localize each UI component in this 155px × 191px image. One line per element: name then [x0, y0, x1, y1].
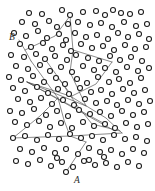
node-circle: [55, 156, 60, 161]
node-circle: [121, 87, 126, 92]
figure-container: BA: [0, 0, 155, 191]
node-circle: [11, 136, 16, 141]
node-circle: [20, 20, 25, 25]
node-circle: [126, 35, 131, 40]
node-circle: [23, 134, 28, 139]
node-circle: [65, 58, 70, 63]
node-circle: [92, 68, 97, 73]
node-circle: [33, 22, 38, 27]
figure-background: [0, 0, 155, 191]
node-circle: [112, 133, 117, 138]
node-circle: [115, 165, 120, 170]
node-circle: [56, 87, 61, 92]
node-circle: [22, 55, 27, 60]
node-circle: [39, 96, 44, 101]
node-circle: [28, 100, 33, 105]
node-circle: [134, 24, 139, 29]
node-circle: [88, 112, 93, 117]
node-circle: [124, 121, 129, 126]
node-circle: [38, 158, 43, 163]
node-circle: [117, 77, 122, 82]
node-circle: [55, 109, 60, 114]
node-circle: [114, 70, 119, 75]
node-circle: [146, 122, 151, 127]
node-circle: [87, 146, 92, 151]
node-circle: [64, 147, 69, 152]
node-circle: [86, 56, 91, 61]
node-circle: [68, 13, 73, 18]
node-circle: [57, 32, 62, 37]
node-circle: [32, 107, 37, 112]
node-circle: [142, 110, 147, 115]
node-circle: [63, 82, 68, 87]
node-circle: [128, 81, 133, 86]
node-circle: [113, 126, 118, 131]
node-circle: [119, 11, 124, 16]
node-circle: [81, 64, 86, 69]
node-circle: [120, 109, 125, 114]
node-circle: [7, 75, 12, 80]
node-circle: [60, 160, 65, 165]
node-circle: [41, 41, 46, 46]
node-circle: [116, 31, 121, 36]
node-circle: [123, 43, 128, 48]
node-circle: [144, 45, 149, 50]
node-circle: [137, 102, 142, 107]
node-circle: [99, 21, 104, 26]
node-circle: [29, 45, 34, 50]
node-circle: [134, 135, 139, 140]
node-circle: [105, 99, 110, 104]
node-circle: [94, 9, 99, 14]
node-circle: [27, 11, 32, 16]
node-circle: [61, 98, 66, 103]
node-circle: [111, 8, 116, 13]
node-circle: [26, 162, 31, 167]
node-circle: [57, 137, 62, 142]
node-circle: [45, 36, 50, 41]
endpoint-label-b: B: [9, 32, 15, 42]
node-circle: [61, 43, 66, 48]
node-circle: [50, 47, 55, 52]
node-circle: [9, 53, 14, 58]
node-circle: [89, 90, 94, 95]
node-circle: [90, 46, 95, 51]
node-circle: [129, 55, 134, 60]
node-circle: [8, 109, 13, 114]
node-circle: [82, 159, 87, 164]
node-circle: [95, 33, 100, 38]
node-circle: [66, 22, 71, 27]
node-circle: [67, 92, 72, 97]
node-circle: [70, 70, 75, 75]
node-circle: [145, 139, 150, 144]
node-circle: [76, 20, 81, 25]
node-circle: [109, 148, 114, 153]
node-circle: [13, 120, 18, 125]
node-circle: [98, 150, 103, 155]
node-circle: [90, 134, 95, 139]
node-circle: [24, 34, 29, 39]
node-circle: [38, 63, 43, 68]
node-circle: [87, 158, 92, 163]
node-circle: [25, 123, 30, 128]
node-circle: [35, 138, 40, 143]
node-circle: [26, 67, 31, 72]
node-circle: [92, 124, 97, 129]
node-circle: [64, 170, 69, 175]
node-circle: [103, 122, 108, 127]
node-circle: [73, 31, 78, 36]
node-circle: [94, 101, 99, 106]
node-circle: [37, 119, 42, 124]
node-circle: [60, 8, 65, 13]
node-circle: [31, 74, 36, 79]
scatter-network-diagram: BA: [0, 0, 155, 191]
node-circle: [85, 81, 90, 86]
node-circle: [81, 120, 86, 125]
node-circle: [98, 110, 103, 115]
node-circle: [69, 49, 74, 54]
node-circle: [102, 155, 107, 160]
node-circle: [46, 133, 51, 138]
node-circle: [123, 137, 128, 142]
node-circle: [137, 32, 142, 37]
node-circle: [42, 80, 47, 85]
node-circle: [84, 35, 89, 40]
